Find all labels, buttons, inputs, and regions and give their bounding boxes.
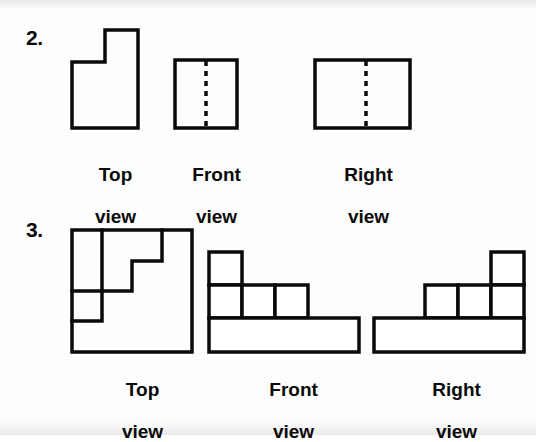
label-p3-right-view: Right view — [400, 358, 492, 442]
p3-right-cell-0 — [491, 252, 524, 285]
problem-number-2: 2. — [26, 26, 43, 50]
p3-front-cell-group — [209, 252, 359, 352]
p3-right-cell-3 — [491, 285, 524, 318]
figure-p3-top-view — [70, 228, 194, 354]
label-p3-right-line2: view — [436, 421, 477, 442]
p3-front-cell-0 — [209, 252, 242, 285]
label-p3-front-line1: Front — [269, 379, 318, 400]
label-p3-front-view: Front view — [241, 358, 325, 442]
label-p2-top-line1: Top — [99, 164, 132, 185]
p2-right-outline-path — [315, 60, 410, 128]
p3-right-cell-4 — [374, 318, 524, 352]
label-p3-right-line1: Right — [432, 379, 481, 400]
p3-right-cell-1 — [425, 285, 458, 318]
problem-number-3: 3. — [26, 218, 43, 242]
label-p3-front-line2: view — [273, 421, 314, 442]
label-p3-top-view: Top view — [90, 358, 174, 442]
p3-right-cell-2 — [458, 285, 491, 318]
label-p2-top-line2: view — [95, 206, 136, 227]
label-p2-right-view: Right view — [312, 143, 404, 248]
label-p2-front-line1: Front — [192, 164, 241, 185]
p3-top-staircase-segment-1 — [72, 230, 162, 321]
label-p2-right-line1: Right — [344, 164, 393, 185]
label-p2-front-line2: view — [196, 206, 237, 227]
label-p2-right-line2: view — [348, 206, 389, 227]
figure-p2-top-view — [70, 28, 140, 130]
figure-p2-right-view — [313, 58, 412, 130]
p3-front-cell-3 — [275, 285, 308, 318]
p3-top-staircase-lines — [72, 230, 162, 321]
figure-p3-right-view — [372, 250, 526, 354]
label-p3-top-line2: view — [122, 421, 163, 442]
figure-p2-front-view — [173, 58, 239, 130]
p3-right-cell-group — [374, 252, 524, 352]
p3-front-cell-1 — [209, 285, 242, 318]
label-p3-top-line1: Top — [126, 379, 159, 400]
p2-top-outline-path — [72, 30, 138, 128]
figure-p3-front-view — [207, 250, 361, 354]
p3-top-staircase-segment-0 — [72, 230, 102, 291]
scan-edge-top — [0, 0, 536, 10]
p3-front-cell-4 — [209, 318, 359, 352]
p3-front-cell-2 — [242, 285, 275, 318]
